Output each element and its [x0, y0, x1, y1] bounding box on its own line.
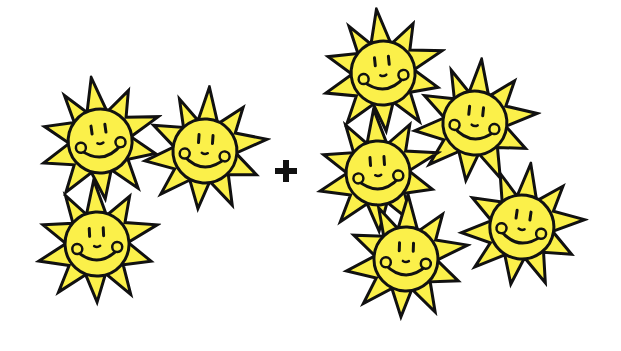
smiling-sun-icon	[29, 175, 166, 312]
smiling-sun-icon	[449, 153, 596, 300]
plus-sign-icon	[273, 158, 299, 184]
sun-illustration	[0, 0, 621, 351]
